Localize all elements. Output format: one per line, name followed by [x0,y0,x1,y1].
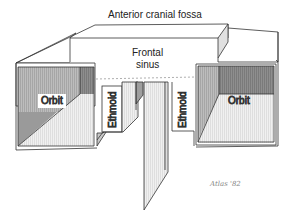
ethmoid-label-right: Ethmoid [177,91,188,128]
anatomy-diagram: Orbit Ethmoid Ethmoid Orbit Anterior cra… [0,0,291,220]
artist-signature: Atlas '82 [209,180,241,188]
frontal-sinus-label-line1: Frontal [132,47,163,58]
orbit-label-right: Orbit [228,95,250,106]
right-orbit: Orbit [196,60,278,147]
nasal-septum [144,82,168,210]
title-anterior-cranial-fossa: Anterior cranial fossa [108,9,202,20]
frontal-sinus-label-line2: sinus [136,59,159,70]
dashed-plate-line [96,77,196,79]
right-ethmoid: Ethmoid [172,82,194,146]
ethmoid-label-left: Ethmoid [107,91,118,128]
orbit-label-left: Orbit [41,95,63,106]
left-ethmoid: Ethmoid [97,82,143,146]
left-orbit: Orbit [16,63,97,150]
